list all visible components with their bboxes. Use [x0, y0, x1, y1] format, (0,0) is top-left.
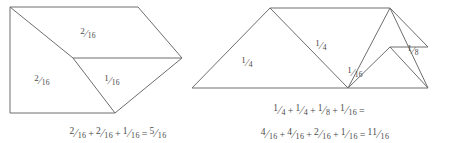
right-equation-sixteenths-term-8-numerator: 11: [368, 127, 378, 137]
right-equation-sixteenths-operator-7: =: [358, 129, 368, 140]
right-equation-sixteenths-operator-1: +: [278, 129, 288, 140]
left-equation-term-4-numerator: 1: [123, 126, 128, 136]
label-right-big-middle-fraction-denominator: 4: [323, 43, 327, 52]
left-figure-shapes: [10, 7, 182, 113]
label-right-big-middle-fraction: 1⁄4: [315, 38, 326, 52]
right-equation-quarters-operator-5: +: [330, 105, 340, 116]
right-equation-sixteenths-term-0-denominator: 16: [269, 132, 278, 141]
label-left-top-fraction-denominator: 16: [88, 31, 96, 40]
label-right-small-triangle-fraction-denominator: 16: [355, 70, 363, 79]
right-equation-quarters-term-2-numerator: 1: [295, 103, 300, 113]
right-equation-sixteenths-term-4-numerator: 2: [314, 127, 319, 137]
left-equation-term-6: 5⁄16: [150, 126, 167, 140]
label-right-big-left-fraction: 1⁄4: [241, 55, 252, 69]
label-left-lower-left-fraction: 2⁄16: [34, 73, 49, 87]
left-equation-term-4: 1⁄16: [123, 126, 140, 140]
right-equation-sixteenths-term-8: 11⁄16: [368, 127, 390, 141]
label-right-square: 1⁄8: [407, 43, 418, 57]
left-equation-operator-5: =: [140, 128, 150, 139]
label-right-big-left: 1⁄4: [241, 55, 252, 69]
right-equation-quarters-term-0: 1⁄4: [273, 103, 286, 117]
figures-svg: [0, 0, 475, 143]
label-right-small-triangle-fraction: 1⁄16: [347, 65, 362, 79]
right-equation-sixteenths-term-6-denominator: 16: [349, 132, 358, 141]
right-equation-sixteenths: 4⁄16+4⁄16+2⁄16+1⁄16=11⁄16: [261, 127, 390, 141]
label-right-square-fraction-denominator: 8: [415, 48, 419, 57]
right-equation-quarters-term-4: 1⁄8: [318, 103, 331, 117]
right-equation-sixteenths-operator-5: +: [331, 129, 341, 140]
label-left-lower-right-fraction: 1⁄16: [104, 73, 119, 87]
right-inner-v-path: [270, 8, 390, 88]
right-outline-path: [192, 8, 428, 88]
right-equation-sixteenths-term-6: 1⁄16: [341, 127, 358, 141]
left-equation-term-6-numerator: 5: [150, 126, 155, 136]
left-equation-term-6-denominator: 16: [158, 131, 167, 140]
right-figure-shapes: [192, 8, 428, 88]
right-equation-sixteenths-term-4: 2⁄16: [314, 127, 331, 141]
left-equation-term-2-denominator: 16: [104, 131, 113, 140]
right-equation-sixteenths-term-0: 4⁄16: [261, 127, 278, 141]
label-left-lower-right-fraction-denominator: 16: [112, 78, 120, 87]
right-equation-sixteenths-term-2-denominator: 16: [295, 132, 304, 141]
right-equation-quarters: 1⁄4+1⁄4+1⁄8+1⁄16=: [273, 103, 367, 117]
right-equation-quarters-operator-1: +: [286, 105, 296, 116]
label-left-lower-left-fraction-denominator: 16: [42, 78, 50, 87]
label-right-small-triangle: 1⁄16: [347, 65, 362, 79]
left-equation-term-4-denominator: 16: [131, 131, 140, 140]
right-equation-sixteenths-operator-3: +: [304, 129, 314, 140]
label-left-top: 2⁄16: [80, 26, 95, 40]
right-equation-quarters-operator-7: =: [357, 105, 367, 116]
right-square-top-path: [390, 8, 428, 47]
label-right-big-middle: 1⁄4: [315, 38, 326, 52]
right-equation-sixteenths-term-6-numerator: 1: [341, 127, 346, 137]
label-left-top-fraction: 2⁄16: [80, 26, 95, 40]
right-equation-quarters-term-6-denominator: 16: [348, 108, 357, 117]
left-equation-term-0-denominator: 16: [77, 131, 86, 140]
left-equation-term-2: 2⁄16: [96, 126, 113, 140]
left-diagonal-upper-path: [10, 7, 73, 58]
left-equation-operator-1: +: [86, 128, 96, 139]
right-equation-quarters-operator-3: +: [308, 105, 318, 116]
label-left-lower-right: 1⁄16: [104, 73, 119, 87]
right-equation-sixteenths-term-8-denominator: 16: [380, 132, 389, 141]
right-equation-quarters-term-2: 1⁄4: [295, 103, 308, 117]
left-equation: 2⁄16+2⁄16+1⁄16=5⁄16: [69, 126, 166, 140]
left-equation-term-0: 2⁄16: [69, 126, 86, 140]
worksheet-canvas: 2⁄162⁄161⁄162⁄16+2⁄16+1⁄16=5⁄161⁄41⁄41⁄1…: [0, 0, 475, 143]
right-equation-sixteenths-term-2: 4⁄16: [287, 127, 304, 141]
right-equation-sixteenths-term-4-denominator: 16: [322, 132, 331, 141]
label-left-lower-left: 2⁄16: [34, 73, 49, 87]
right-equation-quarters-term-0-denominator: 4: [281, 108, 286, 117]
right-equation-quarters-term-6: 1⁄16: [340, 103, 357, 117]
label-right-big-left-fraction-denominator: 4: [249, 60, 253, 69]
label-right-square-fraction: 1⁄8: [407, 43, 418, 57]
left-equation-operator-3: +: [113, 128, 123, 139]
left-outline-path: [10, 7, 182, 113]
